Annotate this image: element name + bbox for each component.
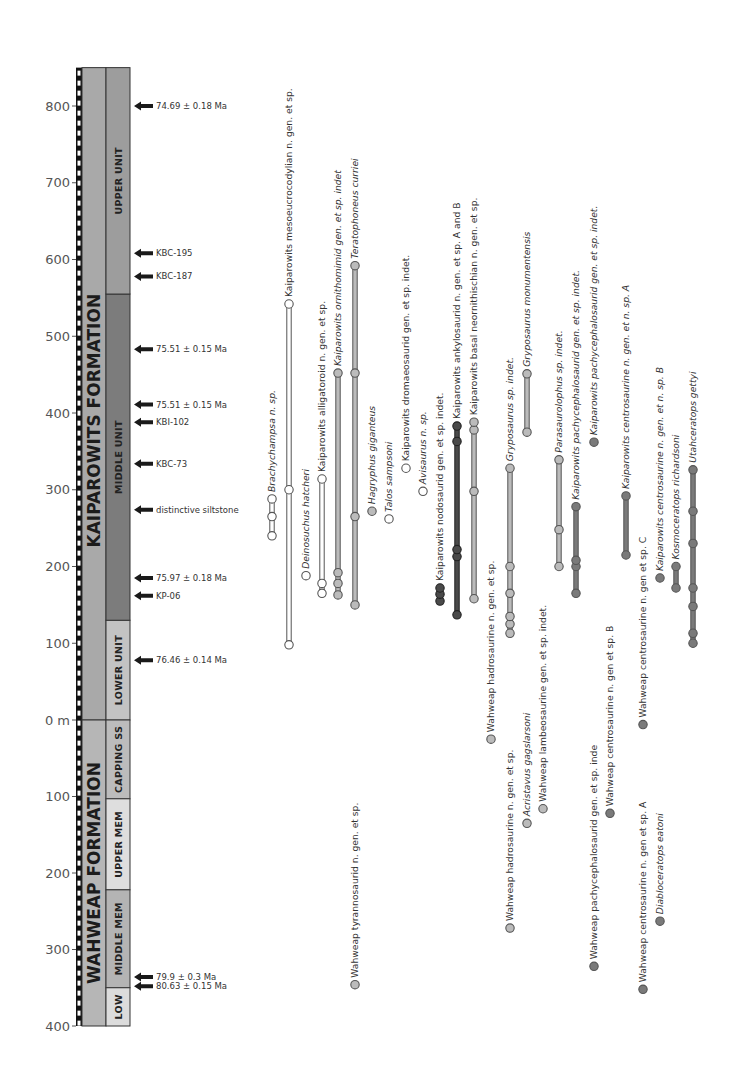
taxon-range: Wahweap tyrannosaurid n. gen. et sp.: [349, 803, 360, 989]
range-bar: [472, 422, 476, 599]
occurrence-dot: [318, 579, 326, 587]
marker-label: 74.69 ± 0.18 Ma: [156, 101, 227, 111]
range-bar: [353, 266, 357, 605]
taxon-label: Kaiparowits alligatoroid n. gen. et sp.: [316, 301, 327, 472]
marker-label: KBC-187: [156, 271, 192, 281]
occurrence-dot: [318, 475, 326, 483]
arrow-left-icon: [134, 345, 153, 354]
taxon-label: Utahceratops gettyi: [687, 371, 698, 463]
arrow-left-icon: [134, 574, 153, 583]
taxon-label: Talos sampsoni: [383, 441, 394, 512]
occurrence-dot: [606, 809, 614, 817]
occurrence-dot: [506, 562, 514, 570]
taxon-label: Deinosuchus hatcheri: [300, 469, 311, 569]
marker-label: KBC-73: [156, 459, 187, 469]
taxon-label: Brachychampsa n. sp.: [266, 390, 277, 492]
occurrence-dot: [506, 629, 514, 637]
occurrence-dot: [506, 612, 514, 620]
occurrence-dot: [453, 422, 461, 430]
occurrence-dot: [572, 502, 580, 510]
range-bar: [691, 470, 695, 643]
arrow-left-icon: [134, 102, 153, 111]
taxon-label: Kaiparowits ankylosaurid n. gen. et sp. …: [451, 202, 462, 419]
unit-label: UPPER MEM: [113, 811, 124, 878]
taxon-range: Wahweap hadrosaurine n. gen. et sp.: [485, 561, 496, 744]
arrow-left-icon: [134, 249, 153, 258]
range-bar: [508, 468, 512, 633]
occurrence-dot: [656, 574, 664, 582]
occurrence-dot: [470, 595, 478, 603]
unit-label: UPPER UNIT: [113, 147, 124, 215]
taxon-range: Kaiparowits ornithomimid gen. et sp. ind…: [332, 170, 343, 599]
occurrence-dot: [572, 556, 580, 564]
taxon-label: Kaiparowits pachycephalosaurid gen. et s…: [570, 270, 581, 500]
y-tick-label: 100: [45, 636, 70, 651]
occurrence-dot: [285, 300, 293, 308]
taxon-range: Gryposaurus sp. indet.: [504, 357, 515, 637]
occurrence-dot: [351, 980, 359, 988]
occurrence-dot: [419, 487, 427, 495]
formation-label-kaiparowits: KAIPAROWITS FORMATION: [84, 294, 104, 548]
range-bar: [320, 479, 324, 593]
taxon-label: Avisaurus n. sp.: [417, 411, 428, 485]
taxon-label: Wahweap lambeosaurine gen. et sp. indet.: [537, 605, 548, 802]
taxon-range: Talos sampsoni: [383, 441, 394, 523]
occurrence-dot: [523, 370, 531, 378]
occurrence-dot: [402, 464, 410, 472]
occurrence-dot: [639, 720, 647, 728]
arrow-left-icon: [134, 973, 153, 982]
taxon-range: Wahweap centrosaurine n. gen et sp. B: [604, 626, 615, 818]
occurrence-dot: [689, 602, 697, 610]
marker-label: 76.46 ± 0.14 Ma: [156, 655, 227, 665]
taxon-label: Wahweap hadrosaurine n. gen. et sp.: [504, 750, 515, 921]
taxon-range: Brachychampsa n. sp.: [266, 390, 277, 540]
marker-label: 75.51 ± 0.15 Ma: [156, 344, 227, 354]
taxon-label: Kaiparowits dromaeosaurid gen. et sp. in…: [400, 255, 411, 461]
taxon-range: Diabloceratops eatoni: [654, 813, 665, 926]
arrow-left-icon: [134, 982, 153, 991]
y-tick-label: 300: [45, 482, 70, 497]
taxon-range: Kaiparowits alligatoroid n. gen. et sp.: [316, 301, 327, 598]
range-bar: [336, 373, 340, 595]
occurrence-dot: [656, 917, 664, 925]
y-tick-label: 700: [45, 175, 70, 190]
occurrence-dot: [368, 507, 376, 515]
occurrence-dot: [689, 639, 697, 647]
taxon-label: Kaiparowits pachycephalosaurid gen. et s…: [588, 206, 599, 436]
y-tick-label: 300: [45, 942, 70, 957]
occurrence-dot: [470, 487, 478, 495]
range-bar: [525, 374, 529, 432]
taxon-label: Wahweap hadrosaurine n. gen. et sp.: [485, 561, 496, 732]
occurrence-dot: [453, 611, 461, 619]
taxon-label: Teratophoneus curriei: [349, 158, 360, 259]
occurrence-dot: [351, 601, 359, 609]
occurrence-dot: [351, 369, 359, 377]
unit-label: MIDDLE MEM: [113, 902, 124, 975]
occurrence-dot: [285, 486, 293, 494]
y-tick-label: 800: [45, 99, 70, 114]
occurrence-dot: [689, 466, 697, 474]
marker-label: KP-06: [156, 591, 180, 601]
taxon-label: Parasaurolophus sp. indet.: [553, 330, 564, 452]
occurrence-dot: [268, 532, 276, 540]
taxon-range: Hagryphus giganteus: [366, 406, 377, 516]
range-bar: [287, 304, 291, 645]
occurrence-dot: [470, 418, 478, 426]
range-bar: [574, 507, 578, 594]
y-tick-label: 200: [45, 559, 70, 574]
occurrence-dot: [436, 584, 444, 592]
occurrence-dot: [523, 819, 531, 827]
taxon-range: Kaiparowits pachycephalosaurid gen. et s…: [588, 206, 599, 447]
marker-label: KBI-102: [156, 417, 189, 427]
taxon-label: Kaiparowits ornithomimid gen. et sp. ind…: [332, 170, 343, 366]
taxon-range: Wahweap lambeosaurine gen. et sp. indet.: [537, 605, 548, 813]
occurrence-dot: [334, 579, 342, 587]
occurrence-dot: [268, 512, 276, 520]
occurrence-dot: [622, 551, 630, 559]
taxon-label: Wahweap centrosaurine n. gen et sp. A: [637, 801, 648, 982]
taxon-range: Kaiparowits mesoeucrocodylian n. gen. et…: [283, 88, 294, 649]
taxon-range: Kaiparowits centrosaurine n. gen. et n. …: [654, 367, 665, 582]
occurrence-dot: [268, 495, 276, 503]
formation-label-wahweap: WAHWEAP FORMATION: [84, 762, 104, 984]
y-tick-label: 200: [45, 866, 70, 881]
